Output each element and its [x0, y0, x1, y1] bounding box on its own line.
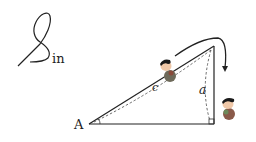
curved-arrow	[175, 38, 226, 68]
title-suffix: in	[52, 51, 65, 66]
arrow-head-icon	[222, 66, 228, 72]
angle-a-arc	[97, 119, 100, 124]
script-s-glyph	[18, 13, 50, 66]
sine-diagram: in A c a	[0, 0, 256, 142]
vertex-a-label: A	[73, 117, 84, 132]
right-angle-mark	[209, 119, 214, 124]
hypotenuse-label: c	[152, 81, 158, 94]
opposite-label: a	[199, 83, 206, 97]
child-figure-right	[222, 98, 235, 120]
